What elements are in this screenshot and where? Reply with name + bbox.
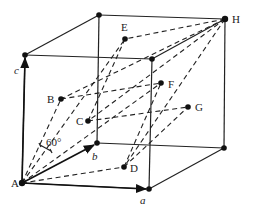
vertex-H-dot [222, 16, 228, 22]
label-B: B [47, 93, 54, 105]
vertex-front-top-right-dot [149, 56, 155, 62]
dash-A-F [22, 83, 161, 183]
dash-B-F [61, 83, 161, 99]
vector-c [22, 58, 25, 183]
edge-back-bottom [97, 143, 224, 148]
label-F: F [168, 78, 174, 90]
dash-A-E [22, 39, 125, 183]
lattice-vectors [22, 58, 146, 189]
edge-back-right [224, 19, 225, 148]
dash-H-C [88, 19, 225, 121]
label-D: D [130, 162, 138, 174]
vertex-back-top-left-dot [96, 12, 102, 18]
vertex-a-dot [146, 186, 152, 192]
label-C: C [76, 115, 83, 127]
point-G-dot [185, 104, 191, 110]
point-D-dot [121, 164, 127, 170]
label-vector-b: b [92, 150, 98, 162]
dash-D-F [124, 83, 161, 167]
label-H: H [232, 13, 240, 25]
dash-H-E [125, 19, 225, 39]
label-angle: 60° [46, 136, 61, 148]
point-E-dot [122, 36, 128, 42]
dash-D-G [124, 107, 188, 167]
label-A: A [11, 177, 19, 189]
dash-C-E [88, 39, 125, 121]
unit-cell-diagram: A B C D E F G H a b c 60° [0, 0, 253, 211]
edge-front-right [149, 59, 152, 189]
label-vector-c: c [14, 64, 19, 76]
edge-top-right-depth [152, 19, 225, 59]
edge-bottom-right-depth [149, 148, 224, 189]
vertex-c-dot [22, 52, 28, 58]
label-vector-a: a [140, 194, 146, 206]
vertex-b-dot [94, 140, 100, 146]
edge-front-top [25, 55, 152, 59]
vertex-back-bottom-right-dot [221, 145, 227, 151]
label-G: G [195, 101, 203, 113]
edge-back-top [99, 15, 225, 19]
dash-C-G [88, 107, 188, 121]
vertex-A-dot [19, 180, 25, 186]
edge-back-left [97, 15, 99, 143]
point-F-dot [158, 80, 164, 86]
point-B-dot [58, 96, 64, 102]
label-E: E [121, 21, 128, 33]
point-C-dot [85, 118, 91, 124]
edge-top-left-depth [25, 15, 99, 55]
labels: A B C D E F G H a b c 60° [11, 13, 240, 206]
vector-a [22, 183, 146, 189]
